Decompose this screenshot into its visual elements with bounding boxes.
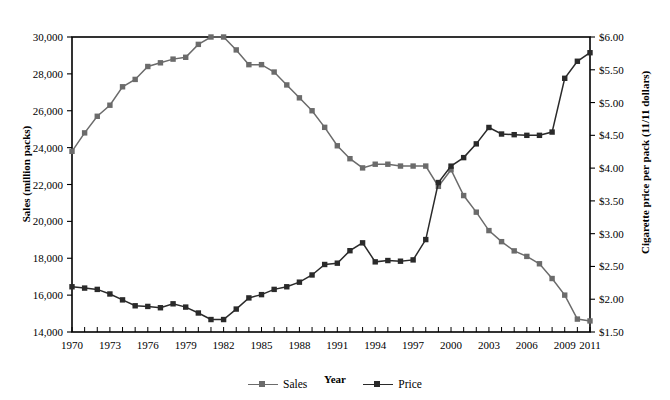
- svg-text:20,000: 20,000: [33, 215, 64, 227]
- svg-text:2006: 2006: [516, 339, 539, 351]
- y-axis-left-title: Sales (million packs): [20, 94, 32, 254]
- svg-text:2011: 2011: [579, 339, 601, 351]
- legend-label-sales: Sales: [283, 378, 307, 390]
- legend-swatch-price: [363, 379, 393, 389]
- svg-text:1991: 1991: [326, 339, 348, 351]
- chart-container: 14,00016,00018,00020,00022,00024,00026,0…: [0, 0, 670, 400]
- svg-text:$3.00: $3.00: [599, 228, 624, 240]
- svg-text:1985: 1985: [251, 339, 274, 351]
- legend-item-price: Price: [363, 378, 422, 390]
- svg-text:$6.00: $6.00: [599, 31, 624, 43]
- svg-text:16,000: 16,000: [33, 289, 64, 301]
- chart-legend: Sales Price: [0, 378, 670, 390]
- y-axis-right-title: Cigarette price per pack (11/11 dollars): [639, 94, 651, 254]
- svg-text:$4.50: $4.50: [599, 129, 624, 141]
- legend-swatch-sales: [248, 379, 278, 389]
- svg-text:30,000: 30,000: [33, 31, 64, 43]
- svg-text:22,000: 22,000: [33, 179, 64, 191]
- svg-text:1982: 1982: [213, 339, 235, 351]
- svg-text:1979: 1979: [175, 339, 198, 351]
- svg-text:$2.50: $2.50: [599, 260, 624, 272]
- svg-text:1988: 1988: [288, 339, 311, 351]
- svg-text:1970: 1970: [61, 339, 84, 351]
- svg-text:1997: 1997: [402, 339, 425, 351]
- svg-text:2009: 2009: [554, 339, 577, 351]
- svg-text:$5.50: $5.50: [599, 64, 624, 76]
- chart-plot: 14,00016,00018,00020,00022,00024,00026,0…: [0, 0, 670, 400]
- svg-text:$1.50: $1.50: [599, 326, 624, 338]
- svg-text:1976: 1976: [137, 339, 160, 351]
- svg-text:2003: 2003: [478, 339, 501, 351]
- legend-item-sales: Sales: [248, 378, 307, 390]
- svg-text:$3.50: $3.50: [599, 195, 624, 207]
- svg-text:18,000: 18,000: [33, 252, 64, 264]
- svg-text:26,000: 26,000: [33, 105, 64, 117]
- svg-text:2000: 2000: [440, 339, 463, 351]
- svg-text:$4.00: $4.00: [599, 162, 624, 174]
- svg-text:28,000: 28,000: [33, 68, 64, 80]
- svg-text:1994: 1994: [364, 339, 387, 351]
- svg-text:$5.00: $5.00: [599, 97, 624, 109]
- svg-text:$2.00: $2.00: [599, 293, 624, 305]
- svg-text:24,000: 24,000: [33, 142, 64, 154]
- svg-text:14,000: 14,000: [33, 326, 64, 338]
- svg-text:1973: 1973: [99, 339, 122, 351]
- legend-label-price: Price: [398, 378, 422, 390]
